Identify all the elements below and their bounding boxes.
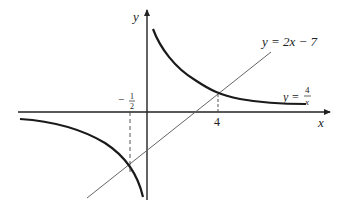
hyperbola-left-branch xyxy=(20,119,143,197)
y-axis-label: y xyxy=(131,9,139,24)
graph-diagram: y x 4 − 1 2 y = 2x − 7 y = 4 x xyxy=(0,0,342,209)
line-equation-label: y = 2x − 7 xyxy=(260,34,318,49)
line-y-2x-minus-7 xyxy=(87,52,271,198)
svg-text:2: 2 xyxy=(130,102,134,111)
svg-text:1: 1 xyxy=(130,92,134,101)
svg-text:−: − xyxy=(118,93,124,105)
x-axis-label: x xyxy=(317,115,324,130)
svg-text:4: 4 xyxy=(305,85,310,95)
svg-text:y =: y = xyxy=(282,90,299,104)
svg-text:x: x xyxy=(304,97,309,107)
hyperbola-equation-label: y = 4 x xyxy=(282,85,311,107)
tick-neg-half-label: − 1 2 xyxy=(118,92,135,111)
tick-four-label: 4 xyxy=(214,115,220,129)
